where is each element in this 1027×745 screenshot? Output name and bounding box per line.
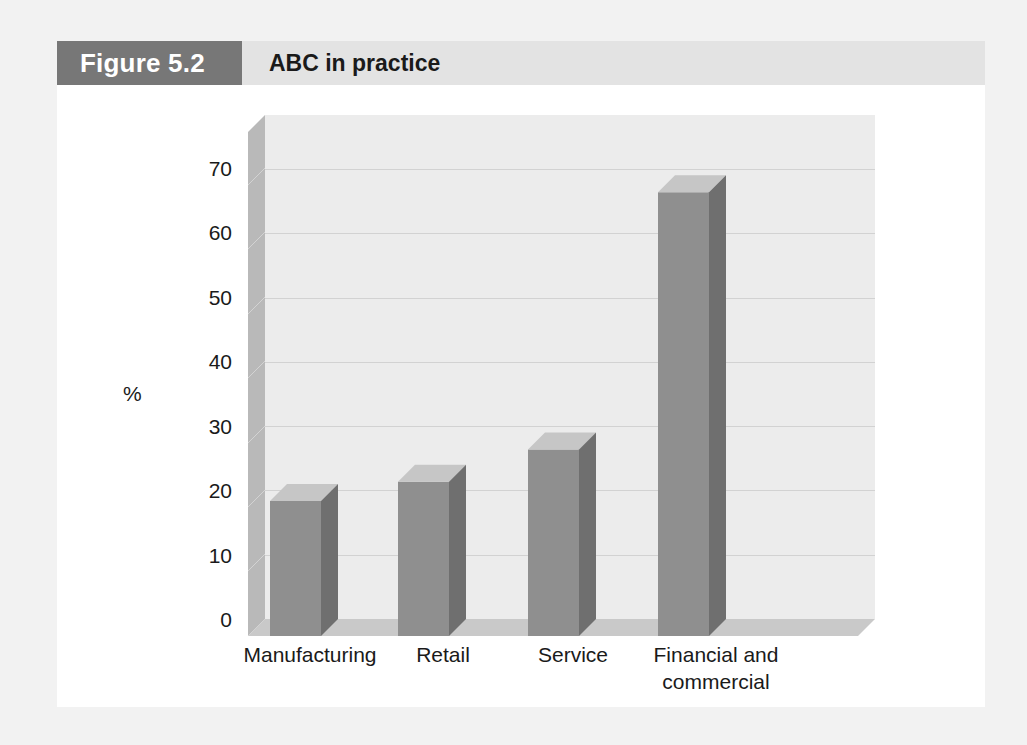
y-axis-title: %: [123, 382, 142, 406]
plot-region: 70 60 50 40 30 20 10 0 % Manufacturing R…: [57, 85, 985, 707]
figure-title-band: ABC in practice: [242, 41, 985, 85]
figure-title-label: ABC in practice: [269, 50, 440, 77]
ytick-label-10: 10: [172, 544, 232, 568]
figure-number-label: Figure 5.2: [80, 48, 205, 79]
figure-header: Figure 5.2 ABC in practice: [57, 41, 985, 85]
page-background: Figure 5.2 ABC in practice: [0, 0, 1027, 745]
chart-3d-bar: 70 60 50 40 30 20 10 0 % Manufacturing R…: [57, 85, 985, 707]
ytick-label-30: 30: [172, 415, 232, 439]
xtick-line-1: Financial and: [611, 641, 821, 668]
ytick-label-50: 50: [172, 286, 232, 310]
figure-number-band: Figure 5.2: [57, 41, 242, 85]
xtick-label-financial-and-commercial: Financial and commercial: [611, 641, 821, 695]
xtick-line-2: commercial: [611, 668, 821, 695]
ytick-label-70: 70: [172, 157, 232, 181]
ytick-label-20: 20: [172, 479, 232, 503]
ytick-label-60: 60: [172, 221, 232, 245]
ytick-label-0: 0: [172, 608, 232, 632]
ytick-label-40: 40: [172, 350, 232, 374]
